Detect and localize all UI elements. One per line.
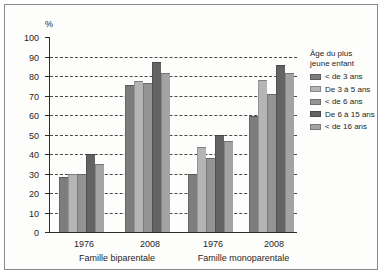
y-axis-tick: 0: [45, 232, 49, 233]
legend-title-line-1: Âge du plus: [310, 49, 386, 59]
bar: [224, 141, 233, 232]
y-axis-tick-label: 30: [29, 170, 39, 179]
bar: [68, 174, 77, 232]
bar: [77, 174, 86, 232]
y-axis-tick-label: 20: [29, 190, 39, 199]
legend-title-line-2: jeune enfant: [310, 59, 386, 69]
bar: [59, 177, 68, 232]
legend-swatch-icon: [310, 111, 321, 117]
y-axis-tick: 80: [45, 76, 49, 77]
legend-item[interactable]: < de 16 ans: [310, 122, 386, 131]
y-axis-tick-label: 50: [29, 131, 39, 140]
y-axis-tick: 70: [45, 96, 49, 97]
y-axis-tick: 60: [45, 115, 49, 116]
plot-area: 0102030405060708090100 1976200819762008F…: [49, 37, 297, 233]
legend-item-label: < de 6 ans: [325, 97, 363, 106]
legend-swatch-icon: [310, 74, 321, 80]
legend-item-label: De 3 à 5 ans: [325, 85, 370, 94]
bar-group: [249, 37, 294, 232]
y-axis-tick: 90: [45, 57, 49, 58]
legend-swatch-icon: [310, 99, 321, 105]
bar: [161, 73, 170, 232]
bar: [206, 158, 215, 232]
legend-item[interactable]: De 3 à 5 ans: [310, 85, 386, 94]
legend-item[interactable]: De 6 à 15 ans: [310, 110, 386, 119]
bar: [267, 94, 276, 232]
y-axis-tick: 40: [45, 154, 49, 155]
y-axis-tick: 20: [45, 193, 49, 194]
bar: [197, 147, 206, 232]
bar: [95, 164, 104, 232]
y-axis-tick-label: 0: [34, 229, 39, 238]
y-axis-tick: 50: [45, 135, 49, 136]
y-axis-tick-label: 60: [29, 112, 39, 121]
x-axis-line: [49, 232, 297, 233]
y-axis-tick-label: 70: [29, 92, 39, 101]
bar: [215, 135, 224, 232]
bar-group: [59, 37, 104, 232]
legend: Âge du plus jeune enfant < de 3 ansDe 3 …: [310, 49, 386, 135]
y-axis-tick-label: 90: [29, 53, 39, 62]
bar: [258, 80, 267, 232]
y-axis-tick-label: 10: [29, 209, 39, 218]
bar: [249, 116, 258, 232]
bar: [276, 65, 285, 232]
bar: [86, 154, 95, 232]
legend-item-label: < de 3 ans: [325, 72, 363, 81]
x-axis-tick-label: 2008: [120, 239, 180, 249]
bar-group: [188, 37, 233, 232]
y-axis-tick-label: 100: [24, 34, 39, 43]
y-axis-unit-label: %: [45, 19, 53, 29]
x-axis-tick-label: 1976: [54, 239, 114, 249]
x-axis-group-label: Famille monoparentale: [164, 253, 324, 263]
chart-frame: % 0102030405060708090100 197620081976200…: [4, 4, 378, 270]
x-axis-tick-label: 1976: [183, 239, 243, 249]
y-axis-tick: 30: [45, 174, 49, 175]
y-axis-tick: 100: [45, 37, 49, 38]
bar: [143, 83, 152, 232]
bar: [285, 73, 294, 232]
legend-title: Âge du plus jeune enfant: [310, 49, 386, 69]
legend-item[interactable]: < de 6 ans: [310, 97, 386, 106]
legend-swatch-icon: [310, 86, 321, 92]
legend-item-label: < de 16 ans: [325, 122, 367, 131]
bar: [188, 174, 197, 233]
x-axis-tick-label: 2008: [244, 239, 304, 249]
legend-item[interactable]: < de 3 ans: [310, 72, 386, 81]
y-axis-tick-label: 40: [29, 151, 39, 160]
legend-item-label: De 6 à 15 ans: [325, 110, 375, 119]
bar: [152, 62, 161, 232]
bar: [134, 81, 143, 232]
bar-group: [125, 37, 170, 232]
y-axis-tick-label: 80: [29, 73, 39, 82]
legend-items: < de 3 ansDe 3 à 5 ans< de 6 ansDe 6 à 1…: [310, 72, 386, 131]
bar: [125, 85, 134, 232]
legend-swatch-icon: [310, 124, 321, 130]
y-axis-tick: 10: [45, 213, 49, 214]
